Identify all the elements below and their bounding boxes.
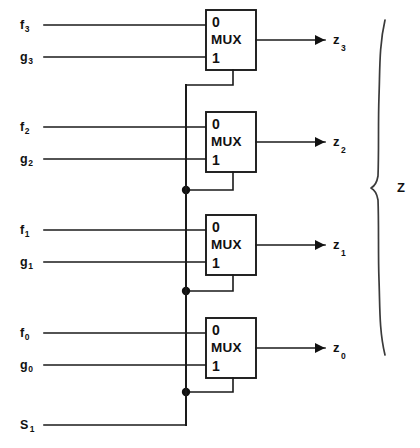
- output-arrow-z1: [315, 240, 325, 250]
- output-label-z3-name: z: [333, 32, 340, 47]
- input-label-g3: g3: [20, 51, 33, 64]
- output-label-z3-sub: 3: [340, 43, 346, 53]
- mux-1-body-label: MUX: [211, 135, 242, 149]
- select-label-s1-sub: 1: [28, 424, 34, 434]
- select-label-s1: S1: [20, 419, 35, 432]
- select-bus: [44, 85, 186, 425]
- mux-0-port-0-label: 0: [212, 15, 220, 29]
- input-label-g2-sub: 2: [28, 158, 33, 168]
- input-label-g1-name: g: [20, 255, 28, 269]
- output-bundle-brace: [371, 20, 385, 355]
- mux-3-port-1-label: 1: [212, 359, 220, 373]
- input-label-g0: g0: [20, 359, 33, 372]
- input-label-f0-sub: 0: [24, 332, 29, 342]
- output-label-z3: z3: [333, 33, 346, 49]
- input-label-g1: g1: [20, 256, 33, 269]
- select-branch-1: [186, 172, 233, 190]
- output-bundle-label: Z: [397, 181, 405, 194]
- select-branch-2: [186, 275, 233, 291]
- mux-2-port-0-label: 0: [212, 220, 220, 234]
- output-label-z0-sub: 0: [340, 351, 346, 361]
- input-label-g0-sub: 0: [28, 364, 33, 374]
- input-label-g1-sub: 1: [28, 261, 33, 271]
- mux-block-2: [44, 215, 325, 295]
- mux-3-port-0-label: 0: [212, 323, 220, 337]
- mux-1-port-0-label: 0: [212, 117, 220, 131]
- input-label-g3-sub: 3: [28, 56, 33, 66]
- select-branch-3: [186, 378, 233, 392]
- input-label-f2-sub: 2: [24, 126, 29, 136]
- input-label-g0-name: g: [20, 358, 28, 372]
- brace-path: [371, 20, 385, 355]
- mux-0-port-1-label: 1: [212, 51, 220, 65]
- output-label-z1-name: z: [333, 237, 340, 252]
- mux-block-3: [44, 318, 325, 396]
- mux-block-1: [44, 112, 325, 194]
- output-label-z2-name: z: [333, 134, 340, 149]
- output-label-z1: z1: [333, 238, 346, 254]
- input-label-f1: f1: [20, 224, 29, 237]
- output-label-z0-name: z: [333, 340, 340, 355]
- mux-array-diagram: 0 MUX 1 f3 g3 z3 0 MUX 1 f2 g2 z2 0 MUX …: [0, 0, 420, 448]
- output-label-z0: z0: [333, 341, 346, 357]
- input-label-g3-name: g: [20, 50, 28, 64]
- input-label-f3: f3: [20, 19, 29, 32]
- input-label-g2-name: g: [20, 152, 28, 166]
- select-branch-0: [186, 70, 233, 85]
- mux-block-0: [44, 10, 325, 85]
- mux-3-body-label: MUX: [211, 341, 242, 355]
- output-label-z1-sub: 1: [340, 248, 346, 258]
- output-arrow-z0: [315, 343, 325, 353]
- mux-1-port-1-label: 1: [212, 153, 220, 167]
- output-label-z2: z2: [333, 135, 346, 151]
- input-label-f0: f0: [20, 327, 29, 340]
- output-label-z2-sub: 2: [340, 145, 346, 155]
- output-arrow-z3: [315, 35, 325, 45]
- input-label-g2: g2: [20, 153, 33, 166]
- output-arrow-z2: [315, 137, 325, 147]
- diagram-canvas: [0, 0, 420, 448]
- input-label-f2: f2: [20, 121, 29, 134]
- input-label-f3-sub: 3: [24, 24, 29, 34]
- mux-2-port-1-label: 1: [212, 256, 220, 270]
- mux-0-body-label: MUX: [211, 33, 242, 47]
- input-label-f1-sub: 1: [24, 229, 29, 239]
- mux-2-body-label: MUX: [211, 238, 242, 252]
